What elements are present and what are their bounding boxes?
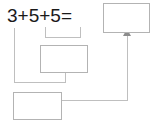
- bracket-bridge-icon: [45, 37, 81, 38]
- connector-first-addend-horizontal: [14, 82, 66, 83]
- answer-box[interactable]: [103, 3, 150, 33]
- worksheet-diagram: 3+5+5=: [0, 0, 154, 123]
- middle-box[interactable]: [40, 45, 88, 73]
- connector-result-vertical: [127, 36, 128, 101]
- connector-middle-box-stub: [65, 73, 66, 82]
- connector-result-horizontal: [62, 100, 128, 101]
- connector-first-addend-vertical: [14, 28, 15, 82]
- equation-text: 3+5+5=: [7, 4, 72, 28]
- lower-box[interactable]: [13, 92, 62, 120]
